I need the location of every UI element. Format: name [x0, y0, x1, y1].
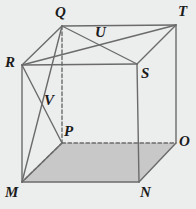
vertex-label-r: R	[5, 55, 15, 70]
vertex-label-n: N	[140, 185, 151, 200]
vertex-label-v: V	[44, 93, 54, 108]
diagonal-R-P	[22, 65, 62, 143]
base-face-MNOP	[22, 143, 176, 182]
vertex-label-o: O	[179, 134, 190, 149]
cube-figure: QTRSUVPOMN	[0, 0, 196, 209]
vertex-label-s: S	[141, 66, 149, 81]
edge-Q-T	[62, 25, 176, 26]
edge-S-T	[137, 25, 176, 64]
shaded-faces	[22, 143, 176, 182]
vertex-label-u: U	[95, 25, 106, 40]
vertex-label-p: P	[64, 124, 73, 139]
vertex-label-t: T	[178, 4, 187, 19]
vertex-label-m: M	[5, 185, 18, 200]
edge-R-S	[22, 64, 137, 65]
vertex-label-q: Q	[55, 5, 66, 20]
